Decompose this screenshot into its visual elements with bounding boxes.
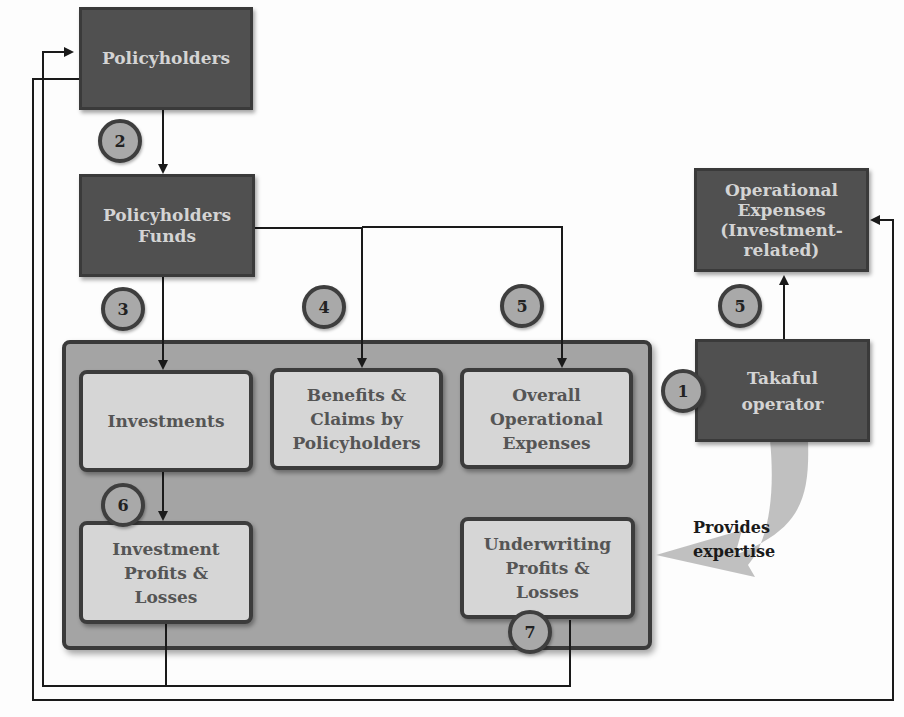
node-benefits-claims: Benefits & Claims by Policyholders xyxy=(270,368,443,470)
provides-expertise-label: Provides expertise xyxy=(693,516,775,564)
step-badge-6-label: 6 xyxy=(117,496,128,515)
node-investment-profits-losses: Investment Profits & Losses xyxy=(79,521,253,624)
step-badge-2: 2 xyxy=(98,119,142,163)
step-badge-2-label: 2 xyxy=(114,132,125,151)
step-badge-7: 7 xyxy=(508,610,552,654)
opex-line3: (Investment- xyxy=(720,220,843,240)
investment-pl-line3: Losses xyxy=(112,585,219,609)
investment-pl-line1: Investment xyxy=(112,537,219,561)
opex-line4: related) xyxy=(720,240,843,260)
provides-expertise-line1: Provides xyxy=(693,516,775,540)
benefits-line3: Policyholders xyxy=(292,431,420,455)
opex-line2: Expenses xyxy=(720,200,843,220)
node-investments-label: Investments xyxy=(107,409,224,433)
investment-pl-line2: Profits & xyxy=(112,561,219,585)
step-badge-5-operator: 5 xyxy=(718,284,762,328)
step-badge-4: 4 xyxy=(302,285,346,329)
step-badge-1-label: 1 xyxy=(677,382,688,401)
node-policyholders-funds-line2: Funds xyxy=(103,226,231,247)
node-operational-expenses-investment: Operational Expenses (Investment- relate… xyxy=(694,168,869,272)
opex-line1: Operational xyxy=(720,180,843,200)
provides-expertise-line2: expertise xyxy=(693,540,775,564)
benefits-line1: Benefits & xyxy=(292,383,420,407)
node-policyholders-funds-line1: Policyholders xyxy=(103,205,231,226)
node-policyholders: Policyholders xyxy=(79,7,253,110)
step-badge-1: 1 xyxy=(661,369,705,413)
underwriting-pl-line1: Underwriting xyxy=(484,532,611,556)
benefits-line2: Claims by xyxy=(292,407,420,431)
step-badge-7-label: 7 xyxy=(524,623,535,642)
step-badge-5-operator-label: 5 xyxy=(734,297,745,316)
step-badge-3-label: 3 xyxy=(117,300,128,319)
takaful-operator-line1: Takaful xyxy=(741,365,823,391)
step-badge-3: 3 xyxy=(101,287,145,331)
node-investments: Investments xyxy=(79,370,253,472)
underwriting-pl-line3: Losses xyxy=(484,580,611,604)
underwriting-pl-line2: Profits & xyxy=(484,556,611,580)
node-underwriting-profits-losses: Underwriting Profits & Losses xyxy=(460,517,635,619)
node-overall-operational-expenses: Overall Operational Expenses xyxy=(460,368,633,469)
node-policyholders-label: Policyholders xyxy=(102,48,230,69)
step-badge-5-main-label: 5 xyxy=(516,297,527,316)
node-takaful-operator: Takaful operator xyxy=(695,339,870,442)
node-policyholders-funds: Policyholders Funds xyxy=(79,174,255,277)
step-badge-6: 6 xyxy=(101,483,145,527)
overall-opex-line3: Expenses xyxy=(490,431,603,455)
overall-opex-line1: Overall xyxy=(490,383,603,407)
step-badge-5-main: 5 xyxy=(500,284,544,328)
takaful-operator-line2: operator xyxy=(741,391,823,417)
overall-opex-line2: Operational xyxy=(490,407,603,431)
step-badge-4-label: 4 xyxy=(318,298,329,317)
